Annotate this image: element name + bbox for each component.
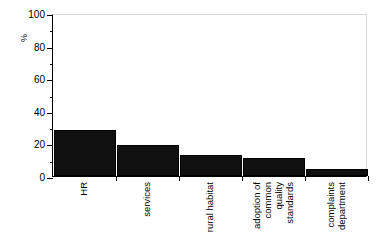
bar-chart-figure: % 020406080100 HRservicesrural habitatad… (0, 0, 385, 242)
x-axis-label: adoption ofcommonqualitystandards (241, 182, 304, 240)
y-axis-tick-label: 0 (15, 171, 45, 185)
y-axis-minor-tick-mark (50, 97, 54, 98)
x-axis-label: rural habitat (178, 182, 241, 240)
x-axis-label-line: common (262, 182, 273, 218)
y-axis-minor-tick-mark (50, 64, 54, 65)
y-axis-tick-label: 100 (15, 8, 45, 22)
bar (54, 130, 116, 176)
plot-area: 020406080100 (52, 14, 367, 177)
bar (180, 155, 242, 176)
x-axis-label-line: adoption of (251, 182, 262, 229)
y-axis-tick-label: 80 (15, 41, 45, 55)
x-axis-label: services (115, 182, 178, 240)
y-axis-tick-mark (47, 145, 53, 146)
y-axis-minor-tick-mark (50, 31, 54, 32)
x-axis-tick-mark (305, 176, 306, 181)
y-axis-tick-label: 40 (15, 106, 45, 120)
x-axis-label-line: complaints (325, 182, 336, 227)
x-axis-tick-mark (242, 176, 243, 181)
y-axis-tick-mark (47, 15, 53, 16)
bar (243, 158, 305, 176)
y-axis-minor-tick-mark (50, 162, 54, 163)
x-axis-tick-mark (368, 176, 369, 181)
x-axis-tick-mark (179, 176, 180, 181)
x-axis-label-line: rural habitat (204, 182, 215, 232)
y-axis-tick-mark (47, 113, 53, 114)
x-axis-label: HR (52, 182, 115, 240)
bar (117, 145, 179, 176)
x-axis-label-line: services (141, 182, 152, 217)
y-axis-tick-mark (47, 48, 53, 49)
x-axis-label-line: HR (78, 182, 89, 196)
bar (306, 169, 368, 176)
y-axis-tick-mark (47, 80, 53, 81)
y-axis-tick-mark (47, 178, 53, 179)
x-axis-label-line: department (336, 182, 347, 230)
y-axis-minor-tick-mark (50, 129, 54, 130)
x-axis-tick-mark (116, 176, 117, 181)
x-axis-label: complaintsdepartment (304, 182, 367, 240)
y-axis-tick-label: 60 (15, 73, 45, 87)
x-axis-label-line: standards (284, 182, 295, 224)
x-axis-label-line: quality (273, 182, 284, 209)
y-axis-tick-label: 20 (15, 138, 45, 152)
